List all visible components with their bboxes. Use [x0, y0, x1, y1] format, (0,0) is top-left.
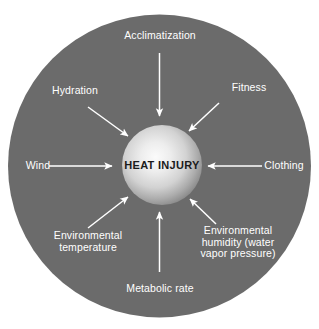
heat-injury-diagram: HEAT INJURY Acclimatization Fitness Clot…: [0, 0, 319, 329]
factor-label-acclimatization[interactable]: Acclimatization: [100, 30, 220, 42]
factor-label-hydration[interactable]: Hydration: [36, 85, 114, 97]
factor-label-environmental-humidity[interactable]: Environmental humidity (water vapor pres…: [186, 225, 290, 260]
factor-label-fitness[interactable]: Fitness: [214, 82, 284, 94]
factor-label-clothing[interactable]: Clothing: [253, 160, 315, 172]
factor-label-metabolic-rate[interactable]: Metabolic rate: [108, 283, 212, 295]
factor-label-environmental-temperature[interactable]: Environmental temperature: [38, 230, 138, 253]
center-node-label: HEAT INJURY: [117, 159, 207, 171]
factor-label-wind[interactable]: Wind: [14, 160, 62, 172]
